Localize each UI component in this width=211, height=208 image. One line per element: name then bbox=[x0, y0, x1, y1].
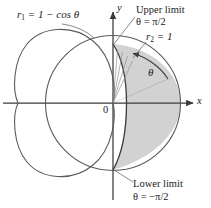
leader-r1 bbox=[62, 24, 94, 38]
leader-upper-limit bbox=[114, 17, 135, 44]
curve-label-r1: r1 = 1 − cos θ bbox=[17, 9, 79, 22]
lower-limit-value: θ = −π/2 bbox=[133, 191, 169, 202]
curve-label-r2: r2 = 1 bbox=[146, 31, 172, 44]
y-axis-label: y bbox=[117, 2, 122, 13]
r1-equation: = 1 − cos θ bbox=[25, 8, 79, 20]
x-axis-label: x bbox=[197, 95, 202, 106]
theta-label: θ bbox=[148, 67, 153, 79]
shaded-region bbox=[113, 44, 181, 170]
upper-limit-label: Upper limit bbox=[136, 4, 185, 15]
upper-limit-value: θ = π/2 bbox=[136, 16, 166, 27]
r2-equation: = 1 bbox=[154, 30, 172, 42]
lower-limit-label: Lower limit bbox=[133, 178, 183, 189]
origin-label: 0 bbox=[103, 104, 108, 115]
leader-lower-limit bbox=[114, 170, 133, 182]
